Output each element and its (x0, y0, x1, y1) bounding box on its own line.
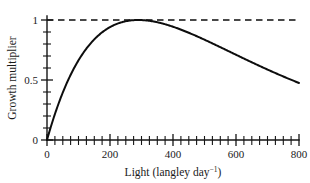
x-tick-label-200: 200 (102, 148, 119, 160)
chart-canvas: 0 0.5 1 0 200 400 600 800 Growth multipl… (0, 0, 310, 183)
x-tick-label-0: 0 (44, 148, 50, 160)
x-axis-title: Light (langley day−1) (125, 165, 222, 179)
x-tick-label-600: 600 (228, 148, 245, 160)
x-axis-title-main: Light (langley day (125, 166, 210, 179)
x-tick-label-400: 400 (165, 148, 182, 160)
x-tick-label-800: 800 (291, 148, 308, 160)
y-tick-label-0.5: 0.5 (24, 74, 38, 86)
x-axis-title-exponent: −1 (210, 165, 218, 174)
y-axis-title: Growth multiplier (6, 36, 19, 120)
chart-figure: 0 0.5 1 0 200 400 600 800 Growth multipl… (0, 0, 310, 183)
x-axis-title-tail: ) (218, 166, 222, 179)
y-tick-label-0: 0 (33, 134, 39, 146)
y-tick-label-1: 1 (33, 14, 39, 26)
